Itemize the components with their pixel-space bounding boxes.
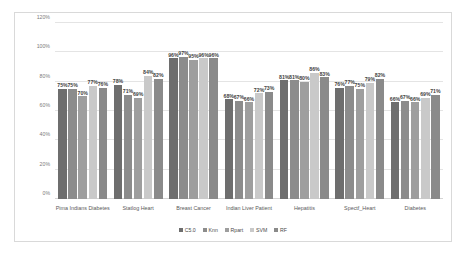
bar-value-label: 82% [375,73,385,78]
bar-slot: 77% [89,23,98,199]
bar[interactable]: 97% [179,57,188,199]
bar-slot: 82% [376,23,385,199]
bar-value-label: 82% [153,73,163,78]
bar[interactable]: 69% [421,98,430,199]
bar[interactable]: 76% [335,88,344,199]
bar[interactable]: 96% [209,58,218,199]
legend-swatch-icon [274,228,278,232]
y-axis-tick-label: 120% [37,14,50,20]
y-axis-tick-label: 100% [37,43,50,49]
legend-swatch-icon [179,228,183,232]
bar-value-label: 78% [113,79,123,84]
bar[interactable]: 66% [391,102,400,199]
legend-label: RF [280,228,287,233]
bar[interactable]: 77% [345,86,354,199]
bar-slot: 80% [300,23,309,199]
bar[interactable]: 72% [255,93,264,199]
bar-value-label: 95% [188,54,198,59]
bar[interactable]: 82% [154,79,163,199]
bar[interactable]: 77% [89,86,98,199]
bar-slot: 66% [411,23,420,199]
bar-slot: 81% [290,23,299,199]
legend-label: Knn [209,228,218,233]
bar-value-label: 68% [224,94,234,99]
bar[interactable]: 67% [235,101,244,199]
bar-slot: 82% [154,23,163,199]
bar[interactable]: 73% [265,92,274,199]
bar[interactable]: 69% [134,98,143,199]
bar[interactable]: 80% [300,82,309,199]
bar[interactable]: 81% [280,80,289,199]
plot-area: 0%20%40%60%80%100%120% 75%75%70%77%76%78… [55,23,443,199]
bar-value-label: 76% [98,82,108,87]
legend-item-rf[interactable]: RF [274,228,287,233]
bar[interactable]: 82% [376,79,385,199]
bar[interactable]: 68% [225,99,234,199]
bar-value-label: 69% [420,92,430,97]
bar[interactable]: 96% [199,58,208,199]
bar[interactable]: 79% [366,83,375,199]
bar-value-label: 84% [143,70,153,75]
bar-value-label: 75% [67,83,77,88]
bar[interactable]: 83% [320,77,329,199]
legend-item-c5-0[interactable]: C5.0 [179,228,196,233]
bar-slot: 71% [124,23,133,199]
y-axis-tick-label: 40% [40,131,50,137]
legend-item-svm[interactable]: SVM [250,228,267,233]
bar-group: 76%77%75%79%82% [332,23,387,199]
bar[interactable]: 66% [245,102,254,199]
bar-slot: 69% [421,23,430,199]
y-axis-tick-label: 60% [40,102,50,108]
bar[interactable]: 95% [189,60,198,199]
bar-value-label: 73% [264,86,274,91]
bar-slot: 78% [114,23,123,199]
bar-group: 81%81%80%86%83% [277,23,332,199]
bar-value-label: 80% [299,76,309,81]
bar-slot: 84% [144,23,153,199]
bar[interactable]: 71% [124,95,133,199]
bar[interactable]: 75% [356,89,365,199]
bar-slot: 66% [245,23,254,199]
bar-slot: 75% [58,23,67,199]
bar[interactable]: 86% [310,73,319,199]
bar-slot: 96% [199,23,208,199]
bar[interactable]: 76% [99,88,108,199]
bar-slot: 95% [189,23,198,199]
bar-group: 78%71%69%84%82% [110,23,165,199]
bar-value-label: 86% [309,67,319,72]
legend-swatch-icon [225,228,229,232]
bar[interactable]: 75% [68,89,77,199]
y-axis-tick-label: 80% [40,73,50,79]
chart-container: 0%20%40%60%80%100%120% 75%75%70%77%76%78… [14,12,452,242]
bar-value-label: 83% [319,72,329,77]
legend-label: Rpart [231,228,244,233]
bar-value-label: 76% [334,82,344,87]
bar-value-label: 72% [254,88,264,93]
x-axis-tick-label: Spectf_Heart [332,201,387,215]
bar-slot: 70% [78,23,87,199]
bar[interactable]: 66% [411,102,420,199]
legend-label: C5.0 [185,228,196,233]
bar[interactable]: 96% [169,58,178,199]
x-axis-tick-label: Diabetes [388,201,443,215]
bar-value-label: 67% [400,95,410,100]
bar[interactable]: 84% [144,76,153,199]
bar[interactable]: 67% [401,101,410,199]
legend-item-rpart[interactable]: Rpart [225,228,243,233]
bar-value-label: 75% [57,83,67,88]
bar[interactable]: 70% [78,96,87,199]
legend-item-knn[interactable]: Knn [203,228,218,233]
bar[interactable]: 71% [431,95,440,199]
bar-slot: 67% [401,23,410,199]
bar-value-label: 75% [355,83,365,88]
bar-value-label: 97% [178,51,188,56]
bar[interactable]: 81% [290,80,299,199]
legend-label: SVM [256,228,267,233]
bar[interactable]: 78% [114,85,123,199]
bar-group: 96%97%95%96%96% [166,23,221,199]
bar[interactable]: 75% [58,89,67,199]
bar-value-label: 69% [133,92,143,97]
bar-slot: 96% [209,23,218,199]
bar-slot: 71% [431,23,440,199]
x-axis-tick-label: Indian Liver Patient [221,201,276,215]
